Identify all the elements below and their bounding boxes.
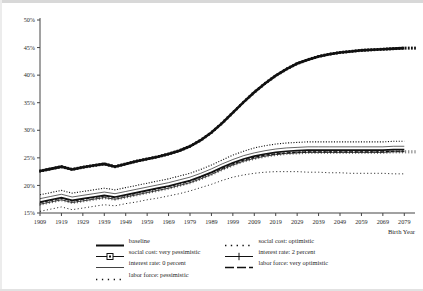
x-axis-tick-label: 2009 [248,218,260,225]
y-axis-tick-label: 45% [24,44,35,51]
x-axis-tick-label: 2029 [291,218,303,225]
series-marker [130,161,132,164]
series-marker [311,57,313,60]
series-marker [133,160,135,163]
series-marker [398,47,400,50]
series-marker [395,47,397,50]
legend-key-sparse-dotted-icon [95,270,125,279]
series-marker [402,47,404,50]
series-marker [342,51,344,54]
series-marker [361,49,363,52]
series-baseline [40,150,404,202]
series-marker [52,167,54,170]
series-marker [195,141,197,144]
series-marker [277,73,279,76]
legend-key-thick-line-icon [95,236,125,245]
y-axis-tick-label: 35% [24,99,35,106]
series-marker [120,164,122,167]
series-marker [298,61,300,64]
legend-item[interactable]: social cost: optimistic [224,236,328,245]
series-marker [255,90,257,93]
x-axis-tick-label: 2069 [377,218,389,225]
series-marker [355,49,357,52]
x-axis-tick-label: 1989 [205,218,217,225]
series-marker [205,135,207,138]
series-marker [127,162,129,165]
series-line [40,172,404,212]
series-marker [123,163,125,166]
series-marker [80,166,82,169]
series-marker [236,107,238,110]
y-axis-tick-label: 30% [24,126,35,133]
series-marker [292,64,294,67]
series-marker [364,49,366,52]
series-marker [142,158,144,161]
series-marker [92,164,94,167]
series-marker [239,104,241,107]
series-marker [286,67,288,70]
series-marker [258,87,260,90]
legend-item-label: baseline [129,236,150,245]
legend-item[interactable]: labor force: very optimistic [224,258,328,267]
series-marker [192,143,194,146]
series-marker [267,80,269,83]
x-axis-tick-label: 2039 [312,218,324,225]
series-marker [264,82,266,85]
series-marker [164,153,166,156]
series-marker [336,52,338,55]
x-axis-tick-label: 2059 [355,218,367,225]
series-marker [186,146,188,149]
legend-key-thin-line-icon [95,258,125,267]
series-marker [202,137,204,140]
legend-item[interactable]: interest rate: 0 percent [95,258,201,267]
series-marker [370,48,372,51]
series-marker [305,59,307,62]
series-marker [64,166,66,169]
series-marker [358,49,360,52]
legend-item-label: interest rate: 2 percent [258,247,315,256]
series-marker [102,163,104,166]
series-marker [367,48,369,51]
series-marker [111,164,113,167]
legend-item-label: labor force: pessimistic [129,270,189,279]
x-axis-title: Birth Year [388,228,416,235]
chart-legend: baselinesocial cost: very pessimisticint… [0,236,423,291]
series-marker [167,153,169,156]
legend-item[interactable]: interest rate: 2 percent [224,247,328,256]
series-marker [295,63,297,66]
series-marker [242,101,244,104]
series-marker [148,157,150,160]
series-marker [170,152,172,155]
legend-item[interactable]: social cost: very pessimistic [95,247,201,256]
series-marker [352,50,354,53]
legend-item[interactable]: baseline [95,236,201,245]
series-marker [280,71,282,74]
series-marker [261,84,263,87]
series-marker [283,69,285,72]
x-axis-tick-label: 1949 [120,218,132,225]
series-marker [227,116,229,119]
series-marker [339,51,341,54]
series-marker [189,145,191,148]
series-marker [245,98,247,101]
line-chart-plot: 15%20%25%30%35%40%45%50%1909191919291939… [0,0,423,236]
series-marker [180,149,182,152]
series-marker [89,165,91,168]
legend-item-label: social cost: optimistic [258,236,314,245]
chart-root: 15%20%25%30%35%40%45%50%1909191919291939… [0,0,423,291]
series-marker [211,131,213,134]
series-marker [98,163,100,166]
legend-key-line-marker-square-icon [95,247,125,256]
series-marker [55,166,57,169]
series-marker [83,166,85,169]
series-marker [86,165,88,168]
series-marker [405,47,407,50]
series-line [40,151,404,202]
series-marker [152,156,154,159]
series-marker [108,164,110,167]
series-marker [248,95,250,98]
legend-item[interactable]: labor force: pessimistic [95,270,201,279]
x-axis-tick-label: 1919 [55,218,67,225]
series-marker [377,48,379,51]
series-marker [214,128,216,131]
